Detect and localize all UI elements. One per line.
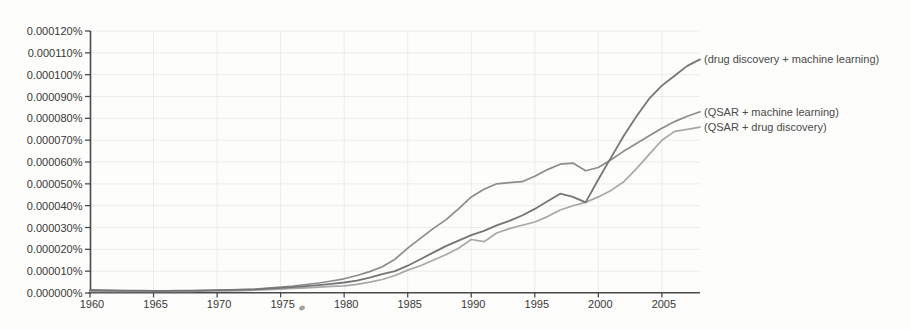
y-tick-label: 0.000050% — [27, 178, 83, 190]
y-tick-label: 0.000010% — [27, 265, 83, 277]
x-tick-label: 1970 — [207, 298, 231, 310]
x-tick-label: 1965 — [143, 298, 167, 310]
series-line-qsar-machine-learning — [90, 112, 700, 291]
series-line-drug-discovery-machine-learning — [90, 59, 700, 290]
series-label-qsar-machine-learning: (QSAR + machine learning) — [704, 106, 839, 118]
y-tick-label: 0.000000% — [27, 287, 83, 299]
ngram-line-chart: 0.000000%0.000010%0.000020%0.000030%0.00… — [0, 0, 910, 329]
series-label-drug-discovery-machine-learning: (drug discovery + machine learning) — [704, 53, 879, 65]
y-tick-label: 0.000110% — [28, 47, 83, 59]
scan-speck — [298, 305, 305, 312]
y-tick-label: 0.000040% — [27, 200, 83, 212]
y-tick-label: 0.000060% — [27, 156, 83, 168]
x-tick-label: 1985 — [397, 298, 421, 310]
x-tick-label: 2005 — [652, 298, 676, 310]
y-tick-label: 0.000030% — [27, 222, 83, 234]
series-line-qsar-drug-discovery — [90, 127, 700, 291]
x-tick-label: 1995 — [525, 298, 549, 310]
y-tick-label: 0.000020% — [27, 243, 83, 255]
scanned-ngram-figure: 0.000000%0.000010%0.000020%0.000030%0.00… — [0, 0, 910, 329]
y-tick-label: 0.000080% — [27, 112, 83, 124]
x-tick-label: 1990 — [461, 298, 485, 310]
y-tick-label: 0.000100% — [27, 69, 83, 81]
y-tick-label: 0.000120% — [27, 25, 83, 37]
series-label-qsar-drug-discovery: (QSAR + drug discovery) — [704, 121, 827, 133]
y-tick-label: 0.000070% — [27, 134, 83, 146]
x-tick-label: 1975 — [270, 298, 294, 310]
x-tick-label: 1960 — [80, 298, 104, 310]
y-tick-label: 0.000090% — [27, 91, 83, 103]
x-tick-label: 1980 — [334, 298, 358, 310]
x-tick-label: 2000 — [588, 298, 612, 310]
